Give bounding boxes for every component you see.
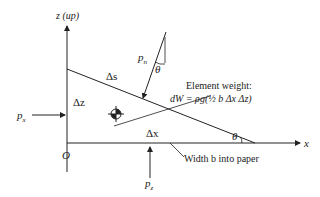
- weight-title: Element weight:: [186, 81, 252, 91]
- theta-label: θ: [232, 131, 237, 142]
- delta-z-label: Δz: [73, 97, 85, 108]
- pn-theta-label: θ: [155, 64, 160, 75]
- width-note: Width b into paper: [184, 154, 259, 164]
- origin-label: O: [62, 150, 70, 161]
- z-axis-label: z (up): [56, 11, 79, 21]
- px-label: px: [17, 110, 26, 124]
- delta-x-label: Δx: [146, 128, 159, 139]
- weight-formula: dW = ρg(½ b Δx Δz): [170, 94, 252, 104]
- diagram-canvas: [0, 0, 320, 197]
- width-leader: [170, 143, 184, 157]
- centroid-icon: [108, 106, 124, 122]
- pz-label: pz: [145, 178, 153, 192]
- x-axis-label: x: [304, 138, 309, 149]
- delta-s-label: Δs: [106, 71, 117, 82]
- pn-label: pn: [138, 52, 147, 66]
